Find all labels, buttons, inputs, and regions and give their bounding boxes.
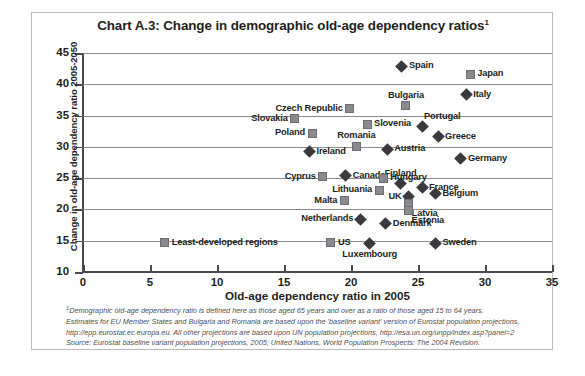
square-marker	[290, 114, 299, 123]
data-point-label: Czech Republic	[276, 103, 343, 113]
footnote-line-3: http://epp.eurostat.ec.europa.eu. All ot…	[66, 328, 546, 339]
square-marker	[160, 238, 169, 247]
footnote-line-1: 1Demographic old-age dependency ratio is…	[66, 303, 546, 317]
data-point-label: Germany	[468, 153, 507, 163]
gridline	[83, 209, 552, 210]
data-point-label: Japan	[477, 68, 503, 78]
y-tick-label: 10	[43, 265, 69, 277]
square-marker	[326, 238, 335, 247]
square-marker	[466, 70, 475, 79]
diamond-marker	[363, 237, 376, 250]
diamond-marker	[381, 143, 394, 156]
y-tick-label: 45	[43, 46, 69, 58]
x-tick-mark	[83, 265, 85, 272]
data-point-label: Luxembourg	[342, 249, 397, 259]
data-point-label: Italy	[473, 89, 491, 99]
x-tick-label: 15	[269, 276, 299, 288]
diamond-marker	[396, 60, 409, 73]
footnote-text-1: Demographic old-age dependency ratio is …	[69, 306, 484, 315]
y-tick-label: 20	[43, 202, 69, 214]
data-point-label: Belgium	[442, 188, 478, 198]
gridline	[83, 241, 552, 242]
data-point-label: Malta	[314, 195, 337, 205]
gridline	[83, 116, 552, 117]
x-tick-mark	[552, 265, 554, 272]
x-tick-mark	[150, 265, 152, 272]
data-point-label: Hungary	[390, 172, 427, 182]
x-tick-label: 30	[470, 276, 500, 288]
diamond-marker	[354, 213, 367, 226]
x-tick-label: 20	[336, 276, 366, 288]
x-tick-label: 10	[202, 276, 232, 288]
chart-title-text: Chart A.3: Change in demographic old-age…	[97, 18, 484, 33]
y-tick-label: 30	[43, 140, 69, 152]
data-point-label: Austria	[394, 143, 425, 153]
data-point-label: Greece	[445, 131, 476, 141]
diamond-marker	[339, 169, 352, 182]
data-point-label: Sweden	[442, 237, 476, 247]
diamond-marker	[432, 130, 445, 143]
diamond-marker	[416, 181, 429, 194]
data-point-label: Least-developed regions	[172, 237, 278, 247]
x-tick-mark	[485, 265, 487, 272]
x-axis	[83, 271, 552, 273]
data-point-label: Slovenia	[374, 118, 411, 128]
data-point-label: Lithuania	[332, 184, 372, 194]
gridline	[83, 53, 552, 54]
data-point-label: Bulgaria	[388, 90, 424, 100]
footnote-line-2: Estimates for EU Member States and Bulga…	[66, 317, 546, 328]
data-point-label: Cyprus	[285, 171, 316, 181]
data-point-label: Romania	[337, 130, 375, 140]
square-marker	[401, 101, 410, 110]
x-tick-label: 25	[403, 276, 433, 288]
diamond-marker	[379, 217, 392, 230]
data-point-label: Netherlands	[301, 213, 353, 223]
y-tick-label: 25	[43, 171, 69, 183]
y-tick-label: 15	[43, 234, 69, 246]
diamond-marker	[416, 120, 429, 133]
square-marker	[340, 196, 349, 205]
square-marker	[308, 129, 317, 138]
data-point-label: Poland	[275, 127, 305, 137]
y-tick-label: 35	[43, 109, 69, 121]
chart-title: Chart A.3: Change in demographic old-age…	[31, 18, 555, 33]
footnotes: 1Demographic old-age dependency ratio is…	[66, 303, 546, 349]
square-marker	[375, 186, 384, 195]
y-tick-label: 40	[43, 77, 69, 89]
chart-title-superscript: 1	[484, 18, 488, 27]
data-point-label: Spain	[409, 60, 434, 70]
x-tick-mark	[217, 265, 219, 272]
diamond-marker	[429, 237, 442, 250]
x-axis-label: Old-age dependency ratio in 2005	[83, 289, 552, 302]
x-tick-mark	[418, 265, 420, 272]
x-tick-label: 35	[537, 276, 567, 288]
x-tick-label: 5	[135, 276, 165, 288]
data-point-label: Estonia	[412, 215, 445, 225]
plot-area: 1015202530354045 05101520253035 SpainIta…	[83, 53, 552, 272]
x-tick-mark	[351, 265, 353, 272]
gridline	[83, 84, 552, 85]
data-point-label: Portugal	[424, 111, 461, 121]
data-point-label: Ireland	[316, 146, 345, 156]
square-marker	[379, 174, 388, 183]
diamond-marker	[455, 152, 468, 165]
data-point-label: UK	[388, 191, 401, 201]
square-marker	[345, 104, 354, 113]
square-marker	[352, 142, 361, 151]
data-point-label: US	[338, 237, 351, 247]
x-tick-mark	[284, 265, 286, 272]
square-marker	[318, 172, 327, 181]
data-point-label: Slovakia	[251, 113, 288, 123]
y-axis-label: Change in old-age dependency ratio 2005-…	[68, 0, 79, 307]
square-marker	[363, 120, 372, 129]
diamond-marker	[460, 89, 473, 102]
footnote-line-4: Source: Eurostat baseline variant popula…	[66, 338, 546, 349]
